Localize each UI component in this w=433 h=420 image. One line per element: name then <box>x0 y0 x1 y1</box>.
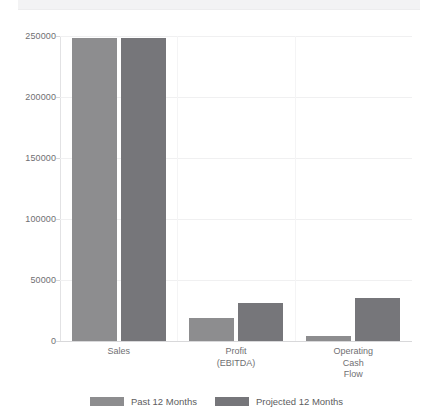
legend-item-past[interactable]: Past 12 Months <box>90 396 197 407</box>
y-axis: 050000100000150000200000250000 <box>0 36 56 341</box>
legend-swatch-icon <box>90 397 124 406</box>
bar[interactable] <box>189 318 234 341</box>
gridline <box>60 36 412 37</box>
bar[interactable] <box>238 303 283 341</box>
bar-chart: 050000100000150000200000250000 SalesProf… <box>0 0 433 420</box>
header-band <box>18 0 420 9</box>
y-axis-tick-label: 100000 <box>0 214 56 224</box>
bar[interactable] <box>355 298 400 341</box>
bar[interactable] <box>72 38 117 341</box>
x-axis-tick-label: Profit (EBITDA) <box>177 346 294 369</box>
chart-legend: Past 12 Months Projected 12 Months <box>0 396 433 407</box>
header-divider <box>18 9 420 10</box>
bar[interactable] <box>121 38 166 341</box>
y-axis-tick-label: 200000 <box>0 92 56 102</box>
category-separator <box>295 36 296 341</box>
legend-label: Projected 12 Months <box>256 396 343 407</box>
plot-area <box>60 36 412 341</box>
y-axis-line <box>60 36 61 341</box>
bar[interactable] <box>306 336 351 341</box>
category-separator <box>177 36 178 341</box>
y-axis-tick-label: 250000 <box>0 31 56 41</box>
x-axis-tick-label: Sales <box>60 346 177 358</box>
legend-label: Past 12 Months <box>131 396 197 407</box>
gridline <box>60 341 412 342</box>
y-axis-tick-label: 150000 <box>0 153 56 163</box>
legend-item-projected[interactable]: Projected 12 Months <box>215 396 343 407</box>
x-axis-labels: SalesProfit (EBITDA)Operating Cash Flow <box>60 346 412 392</box>
y-axis-tick-label: 0 <box>0 336 56 346</box>
y-axis-tick-label: 50000 <box>0 275 56 285</box>
x-axis-tick-label: Operating Cash Flow <box>295 346 412 381</box>
legend-swatch-icon <box>215 397 249 406</box>
